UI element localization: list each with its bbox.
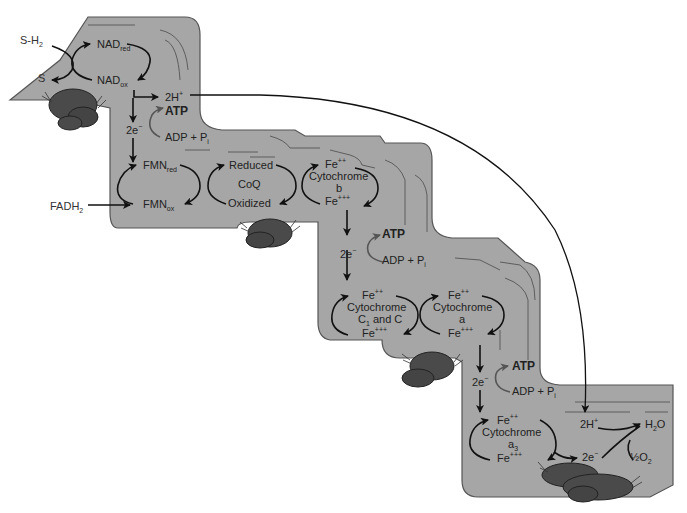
atp-label-2: ATP	[382, 227, 405, 241]
atp-label-1: ATP	[165, 104, 188, 118]
coq-label: CoQ	[238, 178, 261, 190]
fadh2-label: FADH2	[50, 200, 83, 214]
cyt-a-name: Cytochrome	[433, 301, 492, 313]
cyt-c-name: Cytochrome	[347, 301, 406, 313]
rock-1	[49, 89, 98, 130]
coq-oxidized-label: Oxidized	[228, 197, 271, 209]
adp-pi-label-3: ADP + Pi	[512, 385, 556, 399]
cyt-a-letter: a	[459, 313, 466, 325]
adp-pi-label-2: ADP + Pi	[382, 254, 426, 268]
cyt-b-name: Cytochrome	[309, 170, 368, 182]
cyt-a3-name: Cytochrome	[482, 426, 541, 438]
cyt-c-letters: C1 and C	[358, 313, 402, 327]
sh2-label: S-H2	[20, 34, 43, 48]
s-label: S	[38, 72, 45, 84]
cyt-b-letter: b	[336, 182, 342, 194]
coq-reduced-label: Reduced	[229, 159, 273, 171]
rock-2	[246, 219, 292, 248]
electron-transport-chain-diagram: S-H2 S FADH2 NADred NADox 2H+ ATP 2e− AD…	[0, 0, 687, 513]
adp-pi-label-1: ADP + Pi	[165, 131, 209, 145]
atp-label-3: ATP	[512, 359, 535, 373]
